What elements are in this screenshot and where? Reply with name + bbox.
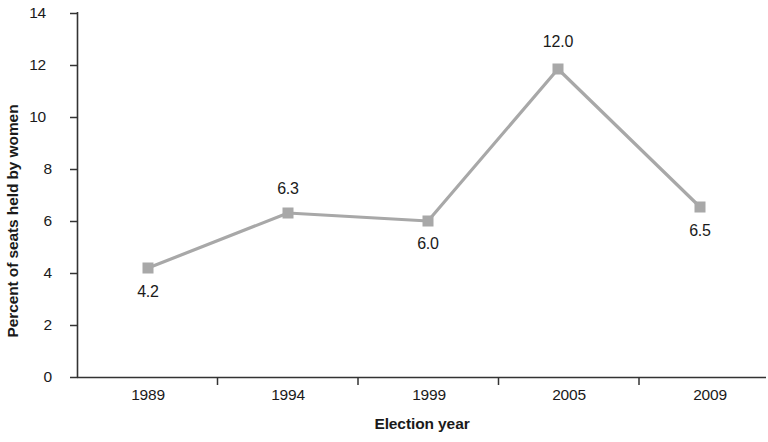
y-axis-ticks xyxy=(70,14,78,378)
plot-area xyxy=(0,0,768,442)
data-point-2009 xyxy=(695,202,706,213)
data-point-1989 xyxy=(143,263,154,274)
data-point-2005 xyxy=(553,64,564,75)
line-chart: Percent of seats held by women 0 2 4 6 8… xyxy=(0,0,768,442)
data-point-1999 xyxy=(423,216,434,227)
x-axis-title: Election year xyxy=(77,415,767,433)
data-markers xyxy=(143,64,706,274)
data-point-1994 xyxy=(283,208,294,219)
x-axis-ticks xyxy=(218,378,640,386)
data-line-series xyxy=(148,69,700,268)
